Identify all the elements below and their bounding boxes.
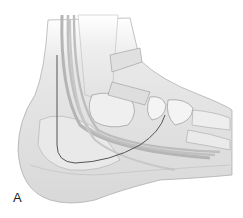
foot-illustration (0, 0, 243, 218)
panel-label: A (13, 190, 22, 205)
anatomical-figure: A (0, 0, 243, 218)
